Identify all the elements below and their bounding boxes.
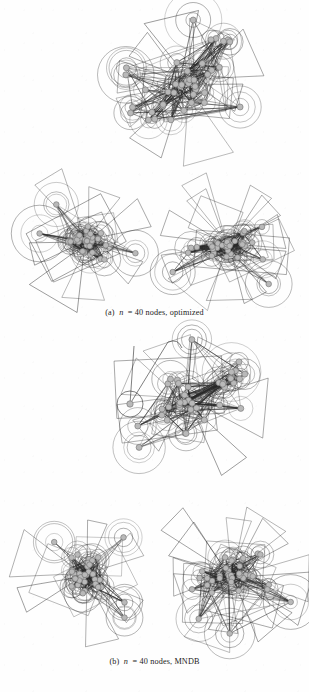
panel-b [0, 0, 309, 692]
caption-b-label: (b) [109, 657, 119, 666]
caption-b-variable: n [124, 657, 128, 666]
graph-drawing-b-top [108, 330, 266, 472]
graph-drawing-b-left [26, 512, 146, 638]
figure-page: (a) n = 40 nodes, optimized (b) n = 40 n… [0, 0, 309, 692]
caption-b-text: = 40 nodes, MNDB [133, 657, 200, 666]
caption-b: (b) n = 40 nodes, MNDB [0, 657, 309, 666]
graph-drawing-b-right [158, 512, 304, 640]
